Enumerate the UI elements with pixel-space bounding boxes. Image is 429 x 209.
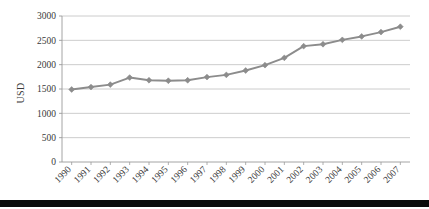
gridlines (62, 16, 410, 138)
data-point-marker: 1994: 1680 (146, 77, 152, 83)
data-point-marker: 1996: 1680 (185, 77, 191, 83)
x-tick-label: 1994 (130, 164, 151, 185)
y-tick-label: 2500 (37, 36, 56, 46)
y-axis-label: USD (15, 82, 26, 103)
data-point-marker: 1999: 1880 (243, 68, 249, 74)
data-point-marker: 2003: 2420 (320, 41, 326, 47)
x-tick-label: 1991 (72, 164, 93, 185)
data-point-marker: 2005: 2580 (359, 34, 365, 40)
x-tick-label: 1995 (149, 164, 170, 185)
data-point-marker: 1990: 1490 (69, 87, 75, 93)
data-point-marker: 2007: 2780 (397, 24, 403, 30)
data-point-marker: 2004: 2510 (339, 37, 345, 43)
series-line-usd (72, 27, 401, 90)
x-tick-label: 2000 (246, 164, 267, 185)
y-tick-label: 2000 (37, 60, 56, 70)
y-axis-tick-labels: 050010001500200025003000 (37, 11, 56, 167)
y-tick-label: 3000 (37, 11, 56, 21)
chart-container: 050010001500200025003000 199019911992199… (0, 0, 429, 209)
x-tick-label: 1993 (111, 164, 132, 185)
x-tick-label: 1996 (169, 164, 190, 185)
line-chart: 050010001500200025003000 199019911992199… (0, 0, 429, 209)
x-tick-label: 1999 (227, 164, 248, 185)
data-point-marker: 1993: 1735 (127, 75, 133, 81)
x-tick-label: 2007 (381, 164, 402, 185)
y-tick-label: 500 (42, 133, 57, 143)
y-tick-label: 1000 (37, 109, 56, 119)
x-axis-tick-labels: 1990199119921993199419951996199719981999… (53, 164, 402, 185)
data-series-usd (72, 27, 401, 90)
x-tick-label: 2004 (323, 164, 344, 185)
x-tick-label: 1992 (91, 164, 112, 185)
x-tick-label: 2003 (304, 164, 325, 185)
x-tick-label: 2006 (362, 164, 383, 185)
x-tick-label: 1998 (207, 164, 228, 185)
x-tick-label: 1997 (188, 164, 209, 185)
data-point-marker: 1995: 1670 (165, 78, 171, 84)
data-point-marker: 1998: 1790 (223, 72, 229, 78)
x-tick-label: 2002 (285, 164, 306, 185)
data-point-marker: 1992: 1590 (107, 82, 113, 88)
y-axis-title: USD (15, 82, 26, 103)
data-point-marker: 1997: 1745 (204, 74, 210, 80)
data-point-marker: 2000: 1990 (262, 62, 268, 68)
bottom-divider-bar (0, 200, 429, 207)
data-point-marker: 2006: 2670 (378, 29, 384, 35)
y-tick-label: 1500 (37, 84, 56, 94)
x-tick-label: 2001 (265, 164, 286, 185)
x-tick-label: 2005 (343, 164, 364, 185)
y-tick-label: 0 (51, 157, 56, 167)
